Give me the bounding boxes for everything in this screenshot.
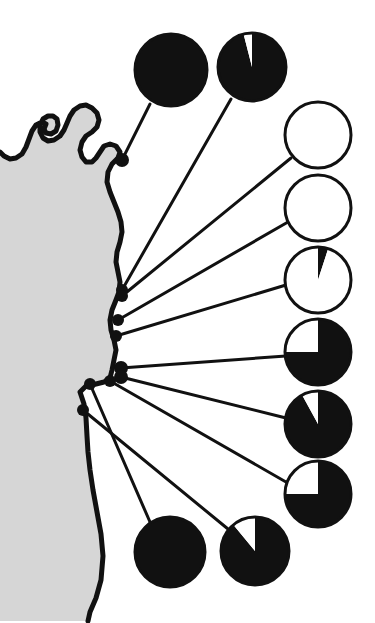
sample-site-dot xyxy=(112,314,124,326)
figure-root: Coastal sampling site pie-chart map xyxy=(0,0,375,623)
pie-chart-pie-2 xyxy=(218,33,286,101)
pie-chart-pie-10 xyxy=(221,517,289,585)
sample-site-dot xyxy=(110,330,122,342)
sample-site-dot xyxy=(104,375,116,387)
pie-chart-pie-4 xyxy=(285,175,351,241)
pie-chart-pie-6 xyxy=(285,319,351,385)
pie-chart-pie-8 xyxy=(285,461,351,527)
pie-chart-pie-5 xyxy=(285,247,351,313)
pie-chart-pie-1 xyxy=(135,34,207,106)
pie-chart-pie-9 xyxy=(135,517,205,587)
pie-chart-pie-3 xyxy=(285,102,351,168)
sample-site-dot xyxy=(115,153,129,167)
sample-site-dot xyxy=(84,378,96,390)
sample-site-dot xyxy=(77,404,89,416)
sample-site-dot xyxy=(116,290,128,302)
pie-chart-pie-7 xyxy=(285,391,351,457)
landmass-group xyxy=(0,105,122,621)
coastline-pie-map xyxy=(0,0,375,623)
sample-site-dot xyxy=(114,370,128,384)
